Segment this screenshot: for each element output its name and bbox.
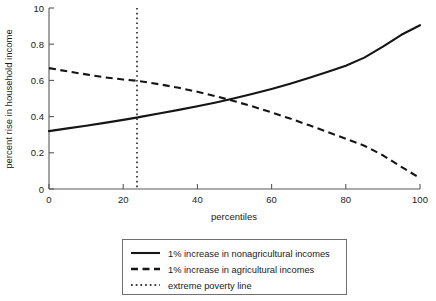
y-tick-label-3: 0.6 [31, 75, 44, 86]
x-axis-title: percentiles [211, 211, 257, 222]
chart-svg: 0 0.2 0.4 0.6 0.8 10 0 20 40 60 80 100 p… [0, 0, 436, 301]
y-tick-label-2: 0.4 [31, 111, 44, 122]
x-tick-label-0: 0 [46, 194, 51, 205]
y-tick-label-4: 0.8 [31, 39, 44, 50]
x-tick-label-2: 40 [192, 194, 203, 205]
x-tick-label-3: 60 [266, 194, 277, 205]
x-axis-ticks: 0 20 40 60 80 100 [46, 184, 428, 205]
x-tick-label-1: 20 [118, 194, 129, 205]
y-tick-label-5: 10 [33, 3, 44, 14]
legend-label-poverty-line: extreme poverty line [168, 281, 252, 291]
series-nonagricultural-incomes [49, 25, 420, 131]
x-tick-label-5: 100 [412, 194, 428, 205]
legend-label-nonagricultural: 1% increase in nonagricultural incomes [168, 249, 330, 259]
chart-figure: 0 0.2 0.4 0.6 0.8 10 0 20 40 60 80 100 p… [0, 0, 436, 301]
legend-label-agricultural: 1% increase in agricultural incomes [168, 265, 315, 275]
y-axis-ticks: 0 0.2 0.4 0.6 0.8 10 [31, 3, 54, 195]
chart-legend: 1% increase in nonagricultural incomes 1… [123, 240, 347, 295]
y-axis-title: percent rise in household income [3, 29, 14, 168]
y-tick-label-0: 0 [39, 184, 44, 195]
x-tick-label-4: 80 [341, 194, 352, 205]
y-tick-label-1: 0.2 [31, 147, 44, 158]
